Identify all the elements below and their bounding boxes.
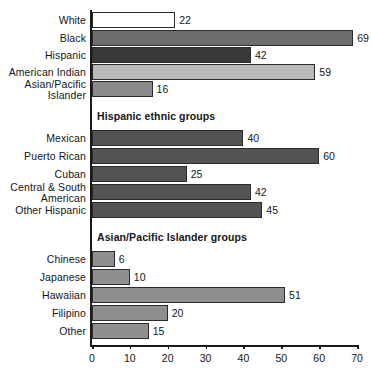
bar-row: Black69	[0, 30, 371, 46]
bar	[92, 323, 149, 339]
x-axis-tick	[357, 345, 359, 349]
bar-value-label: 15	[153, 325, 165, 337]
bar-row-label: Other Hispanic	[0, 205, 86, 216]
bar-value-label: 45	[266, 204, 278, 216]
bar	[92, 81, 153, 97]
bar-row-label: Other	[0, 326, 86, 337]
bar-row-label: Black	[0, 33, 86, 44]
bar-row-label: Mexican	[0, 133, 86, 144]
x-axis-tick	[281, 345, 283, 349]
bar	[92, 287, 285, 303]
bar-row-label: Cuban	[0, 169, 86, 180]
bar-row: Puerto Rican60	[0, 148, 371, 164]
bar-value-label: 22	[179, 14, 191, 26]
bar-value-label: 51	[289, 289, 301, 301]
x-axis-tick-label: 50	[275, 352, 287, 364]
bar-value-label: 16	[157, 83, 169, 95]
x-axis-tick-label: 60	[313, 352, 325, 364]
bar-row-label: Puerto Rican	[0, 151, 86, 162]
bar-row: Hawaiian51	[0, 287, 371, 303]
x-axis-tick-label: 0	[89, 352, 95, 364]
bar-value-label: 6	[119, 253, 125, 265]
bar-row-label: American Indian	[0, 67, 86, 78]
bar-row: Chinese6	[0, 251, 371, 267]
x-axis-tick-label: 30	[200, 352, 212, 364]
bar-value-label: 42	[255, 186, 267, 198]
bar	[92, 269, 130, 285]
bar	[92, 305, 168, 321]
bar	[92, 148, 319, 164]
section-header: Hispanic ethnic groups	[97, 110, 215, 122]
bar	[92, 30, 353, 46]
bar-value-label: 60	[323, 150, 335, 162]
bar	[92, 64, 315, 80]
bar-row: Filipino20	[0, 305, 371, 321]
bar	[92, 202, 262, 218]
x-axis-tick	[92, 345, 94, 349]
bar-row: Japanese10	[0, 269, 371, 285]
bar	[92, 166, 187, 182]
x-axis-tick-label: 10	[124, 352, 136, 364]
bar-row-label-line2: Islander	[48, 88, 86, 100]
bar	[92, 47, 251, 63]
bar-row-label: Japanese	[0, 272, 86, 283]
bar-row: Other15	[0, 323, 371, 339]
bar-row: Mexican40	[0, 130, 371, 146]
bar	[92, 251, 115, 267]
x-axis-tick	[168, 345, 170, 349]
section-header: Asian/Pacific Islander groups	[97, 231, 247, 243]
bar	[92, 184, 251, 200]
bar-row: Central & SouthAmerican42	[0, 184, 371, 200]
x-axis-tick	[206, 345, 208, 349]
bar-row-label: White	[0, 15, 86, 26]
bar	[92, 12, 175, 28]
bar-value-label: 42	[255, 49, 267, 61]
bar-row: Asian/PacificIslander16	[0, 81, 371, 97]
x-axis-tick	[319, 345, 321, 349]
bar-value-label: 10	[134, 271, 146, 283]
bar-row-label: Asian/PacificIslander	[0, 79, 86, 100]
bar-row-label: Hawaiian	[0, 290, 86, 301]
bar-chart: White22Black69Hispanic42American Indian5…	[0, 0, 371, 375]
x-axis-tick-label: 20	[162, 352, 174, 364]
x-axis-tick-label: 40	[238, 352, 250, 364]
bar-row-label: Filipino	[0, 308, 86, 319]
bar-row-label: Hispanic	[0, 50, 86, 61]
x-axis-tick	[130, 345, 132, 349]
bar-row: Hispanic42	[0, 47, 371, 63]
bar-row-label: Chinese	[0, 254, 86, 265]
bar-value-label: 69	[357, 32, 369, 44]
bar-row: Other Hispanic45	[0, 202, 371, 218]
bar	[92, 130, 243, 146]
bar-row-label: Central & SouthAmerican	[0, 182, 86, 203]
bar-row: White22	[0, 12, 371, 28]
bar-value-label: 40	[247, 132, 259, 144]
bar-value-label: 59	[319, 66, 331, 78]
x-axis-tick-label: 70	[351, 352, 363, 364]
x-axis-tick	[243, 345, 245, 349]
bar-value-label: 25	[191, 168, 203, 180]
bar-value-label: 20	[172, 307, 184, 319]
